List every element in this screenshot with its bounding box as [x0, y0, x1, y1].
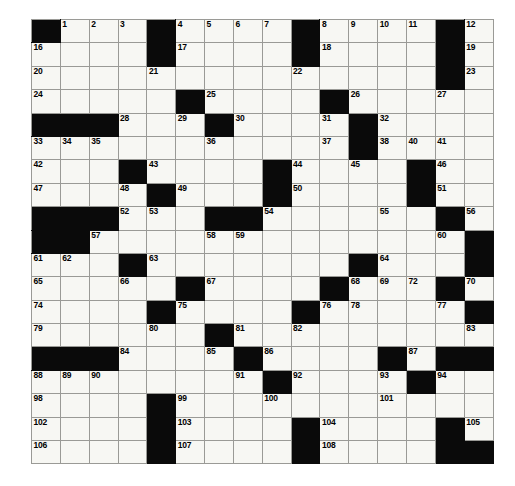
crossword-cell[interactable] — [60, 277, 89, 300]
crossword-cell[interactable]: 107 — [176, 441, 205, 464]
crossword-cell[interactable] — [233, 277, 262, 300]
crossword-cell[interactable]: 104 — [320, 417, 349, 440]
crossword-cell[interactable]: 48 — [118, 183, 147, 206]
crossword-cell[interactable]: 38 — [378, 136, 407, 159]
crossword-cell[interactable]: 59 — [233, 230, 262, 253]
crossword-cell[interactable]: 41 — [435, 136, 464, 159]
crossword-cell[interactable] — [60, 66, 89, 89]
crossword-cell[interactable]: 108 — [320, 441, 349, 464]
crossword-cell[interactable] — [233, 394, 262, 417]
crossword-cell[interactable] — [378, 160, 407, 183]
crossword-cell[interactable] — [176, 324, 205, 347]
crossword-cell[interactable] — [118, 230, 147, 253]
crossword-cell[interactable]: 79 — [32, 324, 61, 347]
crossword-cell[interactable]: 57 — [89, 230, 118, 253]
crossword-cell[interactable] — [89, 394, 118, 417]
crossword-cell[interactable]: 53 — [147, 207, 176, 230]
crossword-cell[interactable] — [118, 43, 147, 66]
crossword-cell[interactable] — [406, 90, 435, 113]
crossword-cell[interactable] — [320, 230, 349, 253]
crossword-cell[interactable]: 4 — [176, 20, 205, 43]
crossword-cell[interactable]: 5 — [205, 20, 234, 43]
crossword-cell[interactable]: 106 — [32, 441, 61, 464]
crossword-cell[interactable]: 7 — [262, 20, 291, 43]
crossword-cell[interactable] — [176, 370, 205, 393]
crossword-cell[interactable] — [464, 394, 493, 417]
crossword-cell[interactable]: 31 — [320, 113, 349, 136]
crossword-cell[interactable] — [464, 160, 493, 183]
crossword-cell[interactable] — [291, 253, 320, 276]
crossword-cell[interactable] — [406, 66, 435, 89]
crossword-cell[interactable] — [320, 183, 349, 206]
crossword-cell[interactable]: 82 — [291, 324, 320, 347]
crossword-cell[interactable] — [233, 136, 262, 159]
crossword-cell[interactable]: 16 — [32, 43, 61, 66]
crossword-cell[interactable] — [349, 347, 378, 370]
crossword-cell[interactable] — [320, 207, 349, 230]
crossword-cell[interactable] — [378, 66, 407, 89]
crossword-cell[interactable] — [205, 394, 234, 417]
crossword-cell[interactable]: 17 — [176, 43, 205, 66]
crossword-cell[interactable] — [262, 66, 291, 89]
crossword-cell[interactable] — [406, 207, 435, 230]
crossword-cell[interactable] — [147, 113, 176, 136]
crossword-cell[interactable] — [118, 394, 147, 417]
crossword-cell[interactable] — [89, 300, 118, 323]
crossword-cell[interactable]: 9 — [349, 20, 378, 43]
crossword-cell[interactable]: 77 — [435, 300, 464, 323]
crossword-cell[interactable] — [464, 90, 493, 113]
crossword-cell[interactable] — [60, 43, 89, 66]
crossword-cell[interactable]: 62 — [60, 253, 89, 276]
crossword-cell[interactable]: 8 — [320, 20, 349, 43]
crossword-cell[interactable] — [118, 370, 147, 393]
crossword-cell[interactable]: 32 — [378, 113, 407, 136]
crossword-cell[interactable]: 46 — [435, 160, 464, 183]
crossword-cell[interactable] — [378, 441, 407, 464]
crossword-cell[interactable] — [262, 441, 291, 464]
crossword-cell[interactable] — [60, 90, 89, 113]
crossword-cell[interactable] — [378, 90, 407, 113]
crossword-cell[interactable]: 66 — [118, 277, 147, 300]
crossword-cell[interactable] — [60, 441, 89, 464]
crossword-cell[interactable]: 67 — [205, 277, 234, 300]
crossword-cell[interactable] — [406, 113, 435, 136]
crossword-cell[interactable] — [464, 136, 493, 159]
crossword-cell[interactable]: 92 — [291, 370, 320, 393]
crossword-cell[interactable] — [233, 43, 262, 66]
crossword-cell[interactable]: 19 — [464, 43, 493, 66]
crossword-cell[interactable] — [464, 113, 493, 136]
crossword-cell[interactable] — [291, 347, 320, 370]
crossword-cell[interactable] — [118, 136, 147, 159]
crossword-cell[interactable] — [320, 347, 349, 370]
crossword-cell[interactable]: 47 — [32, 183, 61, 206]
crossword-cell[interactable] — [406, 230, 435, 253]
crossword-cell[interactable]: 30 — [233, 113, 262, 136]
crossword-cell[interactable]: 93 — [378, 370, 407, 393]
crossword-cell[interactable]: 86 — [262, 347, 291, 370]
crossword-cell[interactable] — [406, 394, 435, 417]
crossword-cell[interactable]: 24 — [32, 90, 61, 113]
crossword-grid[interactable]: 1234567891011121617181920212223242526272… — [31, 19, 494, 464]
crossword-cell[interactable] — [147, 277, 176, 300]
crossword-cell[interactable]: 87 — [406, 347, 435, 370]
crossword-cell[interactable] — [176, 253, 205, 276]
crossword-cell[interactable]: 51 — [435, 183, 464, 206]
crossword-cell[interactable] — [349, 417, 378, 440]
crossword-cell[interactable] — [176, 347, 205, 370]
crossword-cell[interactable] — [406, 300, 435, 323]
crossword-cell[interactable] — [320, 324, 349, 347]
crossword-cell[interactable] — [406, 253, 435, 276]
crossword-cell[interactable] — [262, 136, 291, 159]
crossword-cell[interactable]: 101 — [378, 394, 407, 417]
crossword-cell[interactable] — [262, 300, 291, 323]
crossword-cell[interactable] — [60, 300, 89, 323]
crossword-cell[interactable] — [233, 183, 262, 206]
crossword-cell[interactable] — [176, 66, 205, 89]
crossword-cell[interactable]: 29 — [176, 113, 205, 136]
crossword-cell[interactable]: 80 — [147, 324, 176, 347]
crossword-cell[interactable] — [233, 160, 262, 183]
crossword-cell[interactable] — [205, 441, 234, 464]
crossword-cell[interactable]: 91 — [233, 370, 262, 393]
crossword-cell[interactable]: 11 — [406, 20, 435, 43]
crossword-cell[interactable]: 81 — [233, 324, 262, 347]
